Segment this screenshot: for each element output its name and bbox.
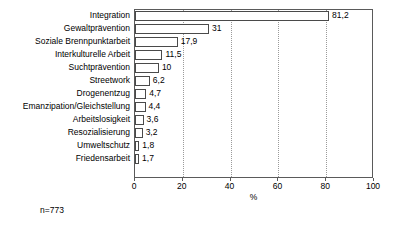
bar-row: 1,7 xyxy=(135,153,372,166)
bar xyxy=(135,154,139,164)
bar xyxy=(135,63,159,73)
bar xyxy=(135,141,139,151)
x-tick-label: 0 xyxy=(132,181,137,191)
bar-rows: 81,23117,911,5106,24,74,43,63,21,81,7 xyxy=(135,10,372,177)
bar xyxy=(135,102,146,112)
x-tick-label: 40 xyxy=(225,181,234,191)
bar-value-label: 3,2 xyxy=(146,126,158,139)
bar-row: 4,7 xyxy=(135,88,372,101)
bar-value-label: 17,9 xyxy=(181,35,198,48)
category-label: Umweltschutz xyxy=(0,139,130,152)
bar xyxy=(135,50,162,60)
bar-row: 3,2 xyxy=(135,127,372,140)
bar xyxy=(135,76,150,86)
category-label: Suchtprävention xyxy=(0,61,130,74)
bar-value-label: 11,5 xyxy=(165,48,181,61)
x-axis-title: % xyxy=(134,192,373,202)
bar-row: 4,4 xyxy=(135,101,372,114)
bar-value-label: 4,7 xyxy=(149,87,161,100)
bar-row: 81,2 xyxy=(135,10,372,23)
bar-row: 10 xyxy=(135,62,372,75)
x-tick-label: 20 xyxy=(177,181,186,191)
x-tick-label: 100 xyxy=(366,181,380,191)
x-axis: 020406080100 xyxy=(134,178,373,192)
bar-row: 31 xyxy=(135,23,372,36)
plot-area: 81,23117,911,5106,24,74,43,63,21,81,7 xyxy=(134,9,373,178)
chart-container: IntegrationGewaltpräventionSoziale Brenn… xyxy=(0,0,400,232)
sample-size-annotation: n=773 xyxy=(40,205,64,215)
bar xyxy=(135,89,146,99)
category-label: Arbeitslosigkeit xyxy=(0,113,130,126)
bar-value-label: 81,2 xyxy=(332,9,349,22)
bar-value-label: 31 xyxy=(212,22,221,35)
x-tick-label: 60 xyxy=(273,181,282,191)
bar-row: 3,6 xyxy=(135,114,372,127)
category-label: Interkulturelle Arbeit xyxy=(0,48,130,61)
category-label: Streetwork xyxy=(0,74,130,87)
category-label: Gewaltprävention xyxy=(0,22,130,35)
category-label: Soziale Brennpunktarbeit xyxy=(0,35,130,48)
category-label: Integration xyxy=(0,9,130,22)
bar xyxy=(135,115,144,125)
category-label: Emanzipation/Gleichstellung xyxy=(0,100,130,113)
bar-row: 1,8 xyxy=(135,140,372,153)
bar xyxy=(135,37,178,47)
bar-value-label: 4,4 xyxy=(149,100,161,113)
bar xyxy=(135,24,209,34)
bar-value-label: 1,8 xyxy=(142,139,154,152)
bar xyxy=(135,11,329,21)
category-label: Resozialisierung xyxy=(0,126,130,139)
category-label: Friedensarbeit xyxy=(0,152,130,165)
category-label: Drogenentzug xyxy=(0,87,130,100)
bar xyxy=(135,128,143,138)
x-tick-label: 80 xyxy=(320,181,329,191)
bar-value-label: 1,7 xyxy=(142,152,154,165)
bar-value-label: 6,2 xyxy=(153,74,165,87)
bar-value-label: 10 xyxy=(162,61,171,74)
bar-row: 6,2 xyxy=(135,75,372,88)
bar-value-label: 3,6 xyxy=(147,113,159,126)
